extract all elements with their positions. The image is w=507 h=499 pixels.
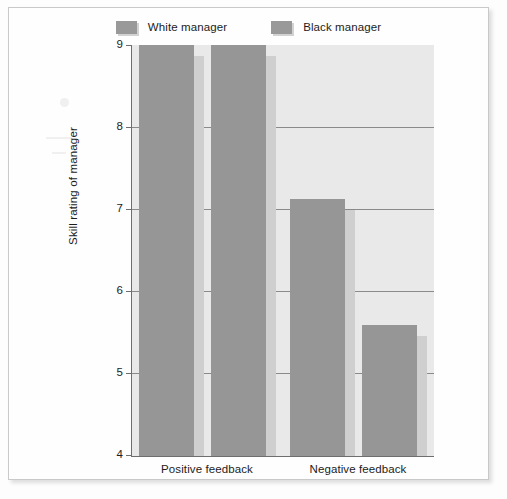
y-tick-label: 7 [101,202,123,214]
bar-positive-black-manager[interactable] [211,45,266,456]
bar-positive-white-manager[interactable] [139,45,194,456]
bar-negative-black-manager[interactable] [362,325,417,456]
x-label-positive-feedback: Positive feedback [143,463,271,475]
y-tick-label: 4 [101,448,123,460]
plot-area [131,45,434,457]
x-label-negative-feedback: Negative feedback [294,463,422,475]
bar-chart: Skill rating of manager 9 8 7 6 5 4 [0,0,507,499]
y-tick-label: 6 [101,284,123,296]
y-tick-label: 5 [101,366,123,378]
y-tick-label: 9 [101,38,123,50]
page-canvas: White manager Black manager Skill rating… [0,0,507,499]
bar-negative-white-manager[interactable] [290,199,345,456]
y-tick-label: 8 [101,120,123,132]
y-axis-title: Skill rating of manager [67,106,79,266]
